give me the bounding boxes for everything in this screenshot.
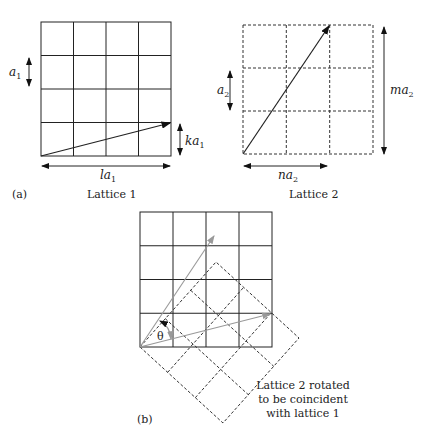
ma2-label: ma2 — [390, 83, 414, 99]
a1-label: a1 — [9, 65, 21, 81]
lattice-2-dimension-arrows — [230, 27, 384, 166]
svg-text:to be coincident: to be coincident — [258, 393, 348, 406]
panel-a-tag: (a) — [12, 188, 27, 201]
na2-label: na2 — [278, 168, 298, 184]
a2-label: a2 — [217, 83, 229, 99]
la1-label: la1 — [100, 168, 116, 184]
panel-b-tag: (b) — [137, 413, 153, 426]
lattice-2-caption: Lattice 2 — [289, 188, 338, 201]
lattice-1-dimension-arrows — [29, 58, 180, 166]
svg-text:Lattice 2 rotated: Lattice 2 rotated — [256, 379, 350, 392]
theta-label: θ — [157, 330, 164, 343]
rotation-note: Lattice 2 rotated to be coincident with … — [256, 379, 350, 420]
lattice-figure: a1 ka1 la1 (a) Lattice 1 a2 ma2 na2 Latt… — [0, 0, 423, 441]
figure-canvas: a1 ka1 la1 (a) Lattice 1 a2 ma2 na2 Latt… — [0, 0, 423, 441]
lattice-1-caption: Lattice 1 — [87, 188, 136, 201]
panel-b-lattice-1-grid — [140, 212, 272, 347]
ka1-label: ka1 — [185, 134, 205, 150]
svg-text:with lattice 1: with lattice 1 — [266, 407, 340, 420]
lattice-1-grid — [41, 22, 171, 156]
lattice-2-grid — [243, 25, 373, 154]
